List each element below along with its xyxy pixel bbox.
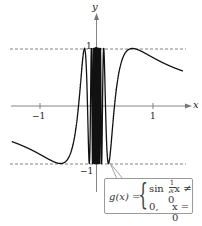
x-axis-arrow-icon [185, 104, 192, 109]
brace-icon: { [138, 180, 148, 209]
callout-pointer [110, 163, 123, 179]
y-tick-label-pos1: 1 [86, 42, 92, 51]
formula-lhs: g(x) = [109, 191, 140, 202]
y-axis-arrow-icon [94, 13, 99, 20]
formula-callout-box: g(x) = { sin 1 x , x ≠ 0 0, x = 0 [104, 178, 193, 214]
formula-row2-value: 0, [149, 201, 159, 212]
x-tick-label-pos1: 1 [150, 112, 156, 121]
formula-row2-condition: x = 0 [172, 201, 192, 223]
formula-row1-func: sin [149, 183, 164, 194]
y-tick-label-neg1: −1 [80, 167, 93, 176]
x-axis-label: x [193, 100, 199, 110]
x-tick-label-neg1: −1 [32, 112, 45, 121]
y-axis-label: y [92, 2, 98, 12]
